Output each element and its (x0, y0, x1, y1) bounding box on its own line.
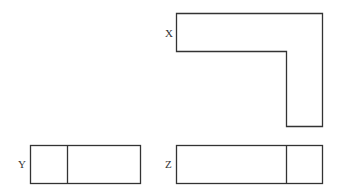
shape-z: Z (165, 146, 323, 184)
label-y: Y (18, 158, 26, 170)
shape-x: X (165, 14, 323, 127)
label-x: X (165, 27, 173, 39)
diagram-canvas: X Y Z (0, 0, 339, 191)
rect-z (177, 146, 323, 184)
l-shape-x (177, 14, 323, 127)
rect-y (31, 146, 141, 184)
shape-y: Y (18, 146, 141, 184)
label-z: Z (165, 158, 172, 170)
